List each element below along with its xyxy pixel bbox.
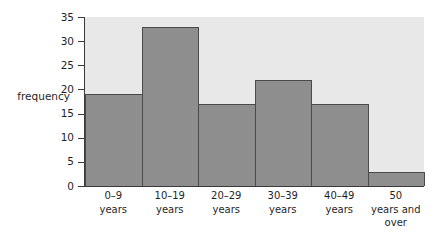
y-axis-tick-label: 0: [50, 181, 74, 192]
x-axis-label-line: years: [311, 203, 368, 217]
y-axis-tick-label: 20: [50, 84, 74, 95]
bar: [198, 104, 256, 186]
y-axis-tick-label: 15: [50, 108, 74, 119]
y-axis-tick: [78, 162, 84, 163]
x-axis-label-line: over: [368, 216, 425, 230]
x-axis-label-line: 10–19: [142, 189, 199, 203]
y-axis-tick: [78, 114, 84, 115]
x-axis-label: 30–39years: [255, 189, 312, 230]
x-axis-line: [84, 186, 424, 187]
bar: [368, 172, 426, 186]
bar-series: [85, 17, 424, 186]
y-axis-tick-label: 5: [50, 156, 74, 167]
x-axis-label-line: 0–9: [85, 189, 142, 203]
x-axis-label: 0–9years: [85, 189, 142, 230]
y-axis-tick: [78, 138, 84, 139]
y-axis-tick-label: 10: [50, 132, 74, 143]
x-axis-label-line: years: [85, 203, 142, 217]
y-axis-tick: [78, 89, 84, 90]
x-axis-label: 40–49years: [311, 189, 368, 230]
histogram-chart: frequency 05101520253035 0–9years10–19ye…: [0, 0, 445, 236]
x-axis-label: 10–19years: [142, 189, 199, 230]
x-axis-label-line: years and: [368, 203, 425, 217]
y-axis-tick-label: 25: [50, 60, 74, 71]
x-axis-label-line: 30–39: [255, 189, 312, 203]
x-axis-label-line: years: [255, 203, 312, 217]
y-axis-tick: [78, 41, 84, 42]
x-axis-label: 50years andover: [368, 189, 425, 230]
y-axis-tick-label: 35: [50, 12, 74, 23]
y-axis-tick: [78, 17, 84, 18]
bar: [255, 80, 313, 186]
y-axis-tick: [78, 65, 84, 66]
x-axis-label-line: 40–49: [311, 189, 368, 203]
bar: [142, 27, 200, 186]
x-axis-label-line: years: [198, 203, 255, 217]
bar: [85, 94, 143, 186]
y-axis-tick-label: 30: [50, 36, 74, 47]
x-axis-labels: 0–9years10–19years20–29years30–39years40…: [85, 189, 424, 230]
x-axis-label-line: years: [142, 203, 199, 217]
x-axis-label-line: 20–29: [198, 189, 255, 203]
bar: [311, 104, 369, 186]
x-axis-label: 20–29years: [198, 189, 255, 230]
x-axis-label-line: 50: [368, 189, 425, 203]
